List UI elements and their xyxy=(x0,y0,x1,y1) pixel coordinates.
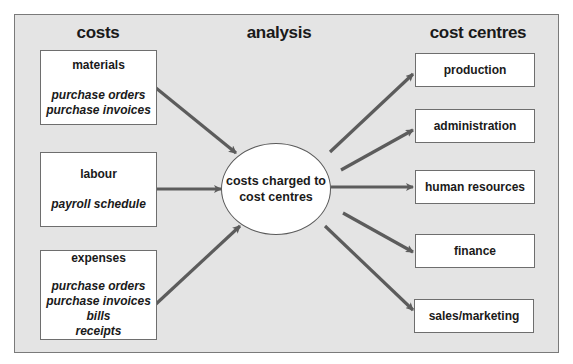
cost-box-materials: materials purchase orders purchase invoi… xyxy=(40,50,157,125)
cost-centre-production: production xyxy=(415,53,535,87)
arrow-analysis-to-production xyxy=(330,74,413,152)
analysis-ellipse: costs charged to cost centres xyxy=(221,143,331,235)
heading-costs: costs xyxy=(77,23,120,43)
cost-title: labour xyxy=(80,167,117,182)
cost-document: purchase orders xyxy=(51,88,145,103)
cost-centre-administration: administration xyxy=(415,109,535,143)
analysis-line-1: costs charged to xyxy=(226,173,326,189)
cost-document: purchase orders xyxy=(51,279,145,294)
arrow-analysis-to-sales-marketing xyxy=(325,226,413,310)
arrow-analysis-to-administration xyxy=(341,130,413,170)
analysis-line-2: cost centres xyxy=(226,189,326,205)
arrow-analysis-to-finance xyxy=(343,213,413,252)
cost-document: purchase invoices xyxy=(46,103,151,118)
arrow-materials-to-analysis xyxy=(156,88,236,153)
cost-title: materials xyxy=(72,58,125,73)
cost-box-labour: labour payroll schedule xyxy=(40,152,157,227)
cost-document: payroll schedule xyxy=(51,197,146,212)
arrow-expenses-to-analysis xyxy=(156,226,240,304)
cost-document: purchase invoices xyxy=(46,294,151,309)
cost-document: bills xyxy=(86,309,110,324)
cost-centre-label: sales/marketing xyxy=(429,309,520,324)
cost-title: expenses xyxy=(71,251,126,266)
cost-centre-sales-marketing: sales/marketing xyxy=(414,299,534,333)
cost-document: receipts xyxy=(75,324,121,339)
heading-analysis: analysis xyxy=(247,23,312,43)
heading-cost-centres: cost centres xyxy=(430,23,527,43)
cost-centre-label: human resources xyxy=(425,180,525,195)
cost-box-expenses: expenses purchase orders purchase invoic… xyxy=(40,250,157,340)
cost-centre-label: administration xyxy=(434,119,517,134)
cost-centre-finance: finance xyxy=(415,234,535,268)
cost-centre-label: production xyxy=(444,63,507,78)
cost-centre-label: finance xyxy=(454,244,496,259)
cost-centre-human-resources: human resources xyxy=(415,170,535,204)
